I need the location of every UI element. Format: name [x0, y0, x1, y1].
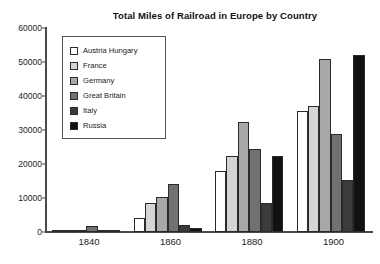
y-axis-tick-mark [42, 130, 46, 131]
bar [342, 180, 353, 232]
y-axis-tick-mark [42, 232, 46, 233]
bar [179, 225, 190, 232]
legend-item-label: Germany [83, 76, 114, 85]
bar [86, 226, 97, 232]
x-axis-tick-label: 1880 [241, 236, 262, 247]
legend-item: France [70, 58, 158, 73]
bar [145, 203, 156, 232]
legend-swatch-icon [70, 92, 78, 100]
bar [308, 106, 319, 232]
bar [353, 55, 364, 232]
legend-swatch-icon [70, 47, 78, 55]
legend-item-label: Austria Hungary [83, 46, 137, 55]
legend-item-label: Great Britain [83, 91, 126, 100]
legend-item: Germany [70, 73, 158, 88]
bar [109, 230, 120, 232]
legend-item: Russia [70, 118, 158, 133]
y-axis-tick-mark [42, 62, 46, 63]
bar [52, 230, 63, 232]
legend-item: Austria Hungary [70, 43, 158, 58]
chart-title: Total Miles of Railroad in Europe by Cou… [70, 10, 360, 21]
y-axis-tick-mark [42, 164, 46, 165]
bar-group [215, 28, 289, 232]
bar [331, 134, 342, 232]
x-axis-tick-label: 1900 [323, 236, 344, 247]
y-axis-tick-mark [42, 198, 46, 199]
y-axis-tick-mark [42, 96, 46, 97]
bar [134, 218, 145, 232]
legend-item: Italy [70, 103, 158, 118]
legend-item: Great Britain [70, 88, 158, 103]
y-axis-tick-mark [42, 28, 46, 29]
legend-swatch-icon [70, 122, 78, 130]
legend-swatch-icon [70, 77, 78, 85]
bar [75, 230, 86, 232]
bar [238, 122, 249, 233]
x-axis-tick-label: 1840 [78, 236, 99, 247]
bar [261, 203, 272, 232]
legend-item-label: France [83, 61, 107, 70]
bar [272, 156, 283, 232]
legend-swatch-icon [70, 107, 78, 115]
bar [249, 149, 260, 232]
legend-item-label: Italy [83, 106, 97, 115]
chart-legend: Austria HungaryFranceGermanyGreat Britai… [62, 36, 166, 139]
bar [190, 228, 201, 232]
legend-swatch-icon [70, 62, 78, 70]
bar [98, 230, 109, 232]
bar [215, 171, 226, 232]
bar [226, 156, 237, 232]
x-axis-tick-label: 1860 [160, 236, 181, 247]
bar-group [297, 28, 371, 232]
bar [297, 111, 308, 232]
bar [319, 59, 330, 232]
bar [156, 197, 167, 232]
bar [63, 230, 74, 232]
legend-item-label: Russia [83, 121, 106, 130]
railroad-bar-chart: Total Miles of Railroad in Europe by Cou… [0, 0, 380, 264]
bar [168, 184, 179, 232]
